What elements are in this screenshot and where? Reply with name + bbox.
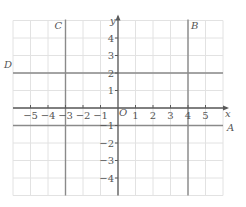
- line-label-B: B: [190, 20, 198, 31]
- x-tick-label: −5: [23, 110, 38, 121]
- x-axis-label: x: [225, 108, 231, 119]
- x-tick-label: 1: [132, 110, 138, 121]
- line-label-D: D: [3, 59, 12, 70]
- y-tick-label: −1: [99, 120, 114, 131]
- coordinate-grid: ABCD−5−4−3−2−1123454321−1−2−3−4xyO: [0, 0, 246, 207]
- line-label-A: A: [226, 122, 234, 133]
- y-tick-label: −3: [99, 155, 114, 166]
- y-tick-label: 1: [108, 85, 114, 96]
- y-axis-label: y: [109, 15, 116, 26]
- x-tick-label: 3: [167, 110, 173, 121]
- y-tick-label: 3: [108, 50, 114, 61]
- origin-label: O: [119, 107, 127, 118]
- line-label-C: C: [55, 20, 63, 31]
- y-tick-label: −2: [99, 138, 114, 149]
- y-tick-label: −4: [99, 173, 114, 184]
- x-tick-label: 5: [202, 110, 208, 121]
- y-axis-arrow-icon: [116, 15, 121, 21]
- x-tick-label: 2: [150, 110, 156, 121]
- x-tick-label: 4: [185, 110, 191, 121]
- y-tick-label: 4: [108, 33, 114, 44]
- x-tick-label: −3: [58, 110, 73, 121]
- x-tick-label: −2: [76, 110, 91, 121]
- y-tick-label: 2: [108, 68, 114, 79]
- axes: [13, 15, 229, 196]
- x-tick-label: −4: [41, 110, 56, 121]
